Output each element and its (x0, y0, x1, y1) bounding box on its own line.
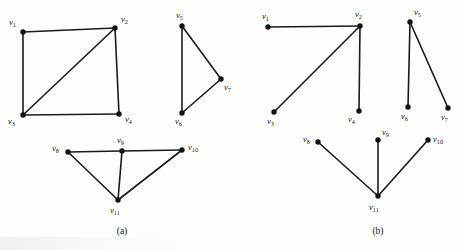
graph-vertex-v11 (375, 193, 380, 198)
graph-edge (68, 152, 118, 200)
vertex-label-v9: v9 (117, 135, 124, 146)
graph-edge (182, 26, 221, 79)
vertex-label-v1: v1 (9, 17, 16, 28)
vertex-label-v2: v2 (355, 9, 362, 20)
vertex-label-v5: v5 (414, 7, 421, 18)
graph-edge (182, 79, 221, 113)
graph-edge (118, 150, 182, 200)
graph-vertex-v6 (179, 110, 184, 115)
graph-vertex-v5 (407, 19, 412, 24)
graph-vertex-v10 (179, 147, 184, 152)
vertex-label-v1: v1 (262, 11, 269, 22)
graph-vertex-v2 (112, 25, 117, 30)
graph-edge (23, 114, 119, 115)
vertex-label-v8: v8 (52, 143, 59, 154)
graph-vertex-v8 (65, 149, 70, 154)
graph-edge (274, 26, 360, 112)
panel-captions-layer: (a)(b) (117, 226, 384, 237)
graph-edge (318, 142, 378, 196)
graph-vertex-v1 (265, 24, 270, 29)
vertex-label-v3: v3 (8, 116, 15, 127)
vertex-label-v7: v7 (441, 112, 448, 123)
vertex-label-v3: v3 (267, 116, 274, 127)
vertex-label-v6: v6 (401, 111, 408, 122)
graph-edge (359, 26, 360, 111)
graph-edge (410, 22, 448, 108)
graph-vertex-v9 (119, 148, 124, 153)
vertex-label-v10: v10 (433, 134, 443, 145)
vertex-label-v10: v10 (188, 142, 198, 153)
vertex-label-v11: v11 (110, 205, 120, 216)
graph-vertex-v3 (20, 112, 25, 117)
graph-edge (23, 28, 115, 115)
edges-layer (23, 22, 448, 200)
graph-vertex-v5 (179, 23, 184, 28)
vertex-labels-layer: v1v2v3v4v5v6v7v8v9v10v11v1v2v3v4v5v6v7v8… (8, 7, 448, 216)
graph-edge (118, 151, 122, 200)
graph-figure-canvas: v1v2v3v4v5v6v7v8v9v10v11v1v2v3v4v5v6v7v8… (0, 0, 463, 250)
figure-container: v1v2v3v4v5v6v7v8v9v10v11v1v2v3v4v5v6v7v8… (0, 0, 463, 250)
vertices-layer (20, 19, 450, 202)
graph-vertex-v7 (218, 76, 223, 81)
graph-vertex-v11 (115, 197, 120, 202)
vertex-label-v2: v2 (121, 14, 128, 25)
graph-vertex-v10 (425, 137, 430, 142)
graph-vertex-v8 (315, 139, 320, 144)
panel-caption-panel-b: (b) (372, 226, 383, 237)
graph-vertex-v6 (405, 104, 410, 109)
graph-edge (23, 28, 115, 32)
vertex-label-v4: v4 (348, 114, 355, 125)
graph-edge (122, 150, 182, 151)
graph-vertex-v3 (271, 109, 276, 114)
graph-edge (115, 28, 119, 114)
vertex-label-v11: v11 (369, 202, 379, 213)
graph-edge (68, 151, 122, 152)
graph-vertex-v1 (20, 29, 25, 34)
graph-vertex-v2 (357, 23, 362, 28)
vertex-label-v6: v6 (175, 116, 182, 127)
vertex-label-v7: v7 (224, 82, 231, 93)
graph-vertex-v4 (116, 111, 121, 116)
graph-edge (378, 140, 428, 196)
vertex-label-v9: v9 (382, 127, 389, 138)
vertex-label-v4: v4 (125, 114, 132, 125)
graph-edge (268, 26, 360, 27)
vertex-label-v8: v8 (303, 134, 310, 145)
graph-vertex-v4 (356, 108, 361, 113)
vertex-label-v5: v5 (176, 10, 183, 21)
graph-vertex-v7 (445, 105, 450, 110)
graph-edge (408, 22, 410, 107)
panel-caption-panel-a: (a) (117, 226, 128, 237)
graph-vertex-v9 (375, 137, 380, 142)
